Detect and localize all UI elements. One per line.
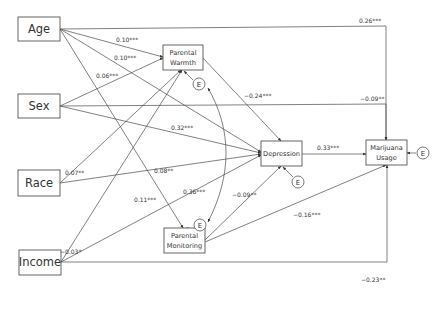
error-monitoring: E <box>194 219 206 231</box>
path-age-depression <box>60 29 261 152</box>
coef-income-depression: 0.36*** <box>183 188 205 195</box>
node-sex: Sex <box>18 94 60 118</box>
node-warmth-line2: Warmth <box>170 59 196 67</box>
node-age-label: Age <box>28 22 50 36</box>
error-depression: E <box>292 176 304 188</box>
coef-age-marijuana: 0.26*** <box>359 17 381 24</box>
node-marijuana-line2: Usage <box>376 154 397 162</box>
coef-income-marijuana: −0.23** <box>361 276 385 283</box>
node-income-label: Income <box>19 255 61 269</box>
node-monitoring-line1: Parental <box>171 232 198 240</box>
node-sex-label: Sex <box>29 99 50 113</box>
coef-age-monitoring: 0.11*** <box>134 196 156 203</box>
error-covariance-curve <box>208 88 226 222</box>
coef-depression-marijuana: 0.33*** <box>317 144 339 151</box>
error-warmth-label: E <box>197 81 201 89</box>
coef-age-warmth: 0.10*** <box>116 36 138 43</box>
node-depression-label: Depression <box>263 150 300 158</box>
node-depression: Depression <box>261 141 302 166</box>
coef-sex-depression: 0.32*** <box>171 124 193 131</box>
coef-race-warmth: 0.07** <box>65 169 84 176</box>
node-race: Race <box>18 170 60 196</box>
path-warmth-depression <box>203 58 281 141</box>
path-diagram: Age Sex Race Income Parental Warmth Pare… <box>0 0 445 312</box>
node-monitoring-line2: Monitoring <box>167 242 202 250</box>
error-marijuana: E <box>417 147 429 159</box>
path-income-marijuana <box>61 165 387 262</box>
error-depression-label: E <box>296 179 300 187</box>
coef-warmth-depression: −0.24*** <box>244 92 271 99</box>
error-warmth: E <box>193 78 205 90</box>
coef-sex-warmth: 0.06*** <box>96 72 118 79</box>
path-sex-depression <box>60 106 261 153</box>
node-age: Age <box>18 17 60 41</box>
node-warmth-line1: Parental <box>170 49 197 57</box>
node-parental-warmth: Parental Warmth <box>163 45 203 70</box>
coef-monitoring-depression: −0.09** <box>232 191 256 198</box>
path-sex-marijuana <box>60 104 386 140</box>
node-race-label: Race <box>25 176 53 190</box>
node-parental-monitoring: Parental Monitoring <box>164 228 205 253</box>
path-sex-warmth <box>60 58 163 106</box>
coef-sex-marijuana: −0.09** <box>360 95 384 102</box>
coef-race-depression: 0.08** <box>154 167 173 174</box>
error-arrow-warmth <box>184 71 193 80</box>
coef-age-depression: 0.10*** <box>114 54 136 61</box>
coef-monitoring-marijuana: −0.16*** <box>293 211 320 218</box>
node-income: Income <box>19 250 61 275</box>
error-monitoring-label: E <box>198 222 202 230</box>
node-marijuana-line1: Marijuana <box>370 144 403 152</box>
node-marijuana-usage: Marijuana Usage <box>366 140 407 165</box>
path-age-warmth <box>60 29 163 57</box>
coef-income-warmth: −0.03* <box>60 248 81 255</box>
error-marijuana-label: E <box>421 150 425 158</box>
error-arrow-depression <box>283 167 293 177</box>
